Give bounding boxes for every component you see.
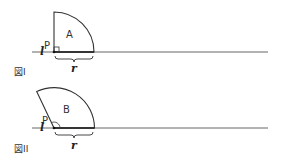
- caption-figure-1: 図I: [14, 67, 26, 77]
- radius-label-2: r: [71, 139, 78, 152]
- point-label-1: P: [44, 40, 50, 51]
- region-label-b: B: [63, 104, 70, 115]
- diagram-canvas: l P A r 図I l P B r 図II: [0, 0, 282, 165]
- radius-label-1: r: [71, 62, 78, 75]
- figure-1: l P A r 図I: [14, 12, 268, 77]
- sector-a: [54, 12, 94, 52]
- point-label-2: P: [42, 115, 48, 126]
- radius-brace-2: [55, 132, 93, 138]
- figure-2: l P B r 図II: [14, 88, 268, 154]
- point-p-1: [53, 51, 56, 54]
- region-label-a: A: [66, 29, 73, 40]
- caption-figure-2: 図II: [14, 144, 28, 154]
- point-p-2: [53, 127, 56, 130]
